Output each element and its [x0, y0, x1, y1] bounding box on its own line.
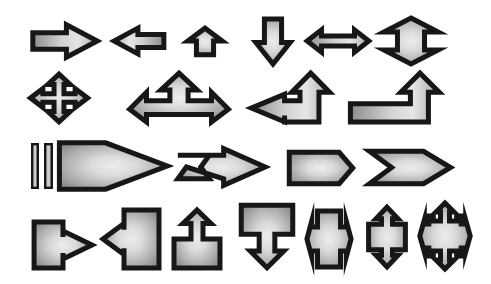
shape-gallery-canvas — [0, 0, 491, 284]
shape-up-down-arrow-callout[interactable] — [364, 205, 410, 269]
shape-bent-up-arrow[interactable] — [348, 71, 444, 124]
up-arrow-outline — [188, 28, 222, 55]
shape-chevron[interactable] — [367, 149, 453, 186]
shape-notched-right-arrow[interactable] — [175, 146, 268, 188]
shape-right-arrow[interactable] — [30, 22, 100, 60]
chevron-outline — [369, 151, 450, 183]
striped-right-arrow-outline — [59, 143, 167, 189]
shape-left-arrow-callout[interactable] — [101, 208, 161, 270]
left-right-arrow-outline — [307, 30, 369, 52]
shape-up-arrow-callout[interactable] — [172, 208, 222, 270]
shape-striped-right-arrow[interactable] — [30, 140, 170, 192]
right-arrow-callout-outline — [34, 222, 92, 268]
shape-down-arrow[interactable] — [253, 17, 293, 66]
quad-arrow-callout-outline — [420, 203, 470, 269]
down-arrow-outline — [256, 19, 290, 64]
up-down-arrow-outline — [384, 18, 438, 64]
shape-down-arrow-callout[interactable] — [239, 203, 295, 270]
shape-quad-arrow[interactable] — [28, 72, 90, 124]
shape-left-right-arrow-callout[interactable] — [305, 209, 353, 269]
left-arrow-callout-outline — [103, 210, 159, 268]
left-arrow-outline — [114, 28, 164, 54]
down-arrow-callout-outline — [241, 205, 293, 268]
shape-right-arrow-callout[interactable] — [32, 220, 94, 270]
quad-arrow-outline — [30, 74, 87, 122]
left-right-arrow-callout-outline — [307, 211, 351, 267]
shape-quad-arrow-callout[interactable] — [418, 201, 472, 271]
up-arrow-callout-outline — [174, 210, 220, 268]
pentagon-banner-outline — [289, 152, 352, 184]
shape-up-arrow[interactable] — [185, 27, 225, 56]
shape-left-up-right-arrow[interactable] — [127, 71, 231, 124]
shape-up-down-arrow[interactable] — [382, 16, 440, 66]
up-down-arrow-callout-outline — [369, 207, 406, 267]
notched-right-arrow-outline — [178, 149, 265, 186]
bent-left-up-arrow-outline — [251, 73, 329, 122]
shape-left-right-arrow[interactable] — [305, 28, 371, 54]
bent-up-arrow-outline — [350, 73, 439, 122]
right-arrow-outline — [33, 25, 97, 58]
shape-left-arrow[interactable] — [112, 26, 166, 56]
shape-pentagon-banner[interactable] — [287, 150, 355, 186]
shape-bent-left-up-arrow[interactable] — [249, 71, 332, 124]
left-up-right-arrow-outline — [130, 73, 229, 122]
